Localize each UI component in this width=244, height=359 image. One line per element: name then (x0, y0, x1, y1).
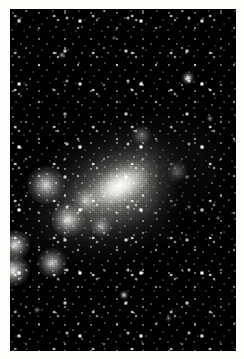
star-e-mid (215, 215, 221, 221)
emulsion-grain-coarse (10, 9, 236, 351)
star-se (165, 315, 172, 322)
star-ne-faint (206, 115, 213, 122)
resolved-star-field-bright (10, 9, 236, 351)
knot-left-upper (27, 166, 65, 204)
knot-left-cluster (51, 203, 85, 237)
astronomical-photograph-plate (10, 9, 236, 351)
resolved-star-field-fine (10, 9, 236, 351)
dark-dust-lane (10, 9, 236, 351)
star-sw (33, 306, 40, 313)
star-nw (58, 51, 66, 59)
knot-left-edge-a (10, 230, 30, 259)
star-n-center (111, 35, 118, 42)
galaxy-core (10, 9, 236, 351)
knot-north-arm (131, 125, 152, 146)
galaxy-outer-halo (10, 9, 236, 351)
knot-inner-west (73, 188, 98, 213)
screenshot-root: irregular dwarf galaxy resolved into sta… (0, 0, 244, 359)
plate-vignette (10, 9, 236, 351)
star-south (119, 290, 129, 300)
knot-lower-left (37, 248, 66, 277)
star-bright-ne (181, 71, 195, 85)
knot-east-faint (167, 161, 188, 182)
emulsion-grain-fine (10, 9, 236, 351)
knot-left-edge-b (10, 254, 30, 288)
galaxy-mid-halo (10, 9, 236, 351)
dark-dust-patch-north (10, 9, 236, 351)
knot-south-core (91, 216, 112, 237)
resolved-star-field-medium (10, 9, 236, 351)
